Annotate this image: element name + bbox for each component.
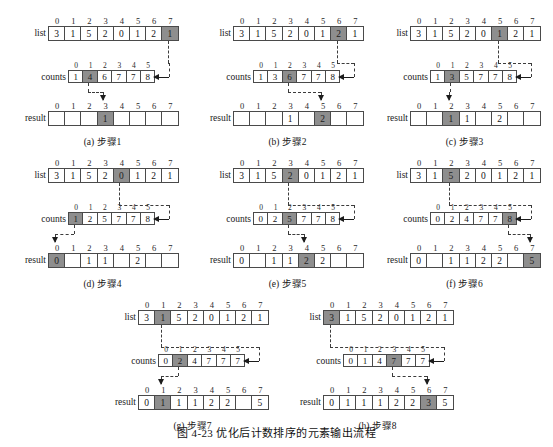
counts-array-label: counts bbox=[10, 70, 69, 85]
cell-index: 2 bbox=[87, 159, 91, 168]
cell-wrapper: 40 bbox=[299, 17, 315, 41]
cell-wrapper: 58 bbox=[141, 204, 155, 225]
cell-index: 1 bbox=[451, 62, 455, 70]
cell-wrapper: 71 bbox=[252, 301, 268, 325]
cell-index: 1 bbox=[274, 62, 278, 70]
cell-wrapper: 57 bbox=[416, 346, 430, 367]
cell-index: 5 bbox=[498, 17, 502, 26]
cell-wrapper: 00 bbox=[159, 346, 173, 367]
result-array: result0123145267 bbox=[195, 102, 364, 126]
cell: 5 bbox=[459, 70, 474, 83]
cell bbox=[249, 253, 266, 268]
cell-index: 2 bbox=[272, 244, 276, 253]
cell: 1 bbox=[459, 253, 476, 268]
cell-index: 0 bbox=[74, 62, 78, 70]
result-array: result01213145267 bbox=[372, 102, 541, 126]
cell-wrapper: 71 bbox=[524, 17, 540, 41]
cell-index: 5 bbox=[136, 159, 140, 168]
cell: 1 bbox=[249, 168, 266, 183]
cell-wrapper: 32 bbox=[460, 159, 476, 183]
cell-index: 1 bbox=[346, 301, 350, 310]
cell-index: 2 bbox=[362, 386, 366, 395]
cell-wrapper: 25 bbox=[266, 159, 282, 183]
panel-step-a: list0311253240516271counts011426374758re… bbox=[10, 8, 195, 150]
cell bbox=[129, 111, 146, 126]
cell-wrapper: 11 bbox=[250, 159, 266, 183]
list-array-cells: 0311253240516271 bbox=[234, 17, 364, 41]
cell-wrapper: 6 bbox=[331, 244, 347, 268]
cell-index: 4 bbox=[395, 386, 399, 395]
list-array-cells: 0311253240516271 bbox=[49, 159, 179, 183]
connector-counts-to-result-vertical bbox=[74, 225, 75, 234]
cell: 0 bbox=[475, 26, 492, 41]
cell-wrapper: 71 bbox=[347, 17, 363, 41]
cell-index: 6 bbox=[337, 244, 341, 253]
cell-wrapper: 01 bbox=[431, 62, 445, 83]
cell-wrapper: 11 bbox=[340, 386, 356, 410]
cell-wrapper: 11 bbox=[155, 386, 171, 410]
cell-wrapper: 2 bbox=[266, 102, 282, 126]
list-array-label: list bbox=[100, 310, 139, 325]
cell-wrapper: 6 bbox=[146, 244, 162, 268]
cell-wrapper: 58 bbox=[326, 204, 340, 225]
cell-index: 0 bbox=[74, 204, 78, 212]
cell: 7 bbox=[401, 354, 416, 367]
cell-wrapper: 03 bbox=[139, 301, 155, 325]
cell bbox=[523, 111, 540, 126]
cell-wrapper: 52 bbox=[130, 244, 146, 268]
cell-index: 0 bbox=[55, 102, 59, 111]
cell-wrapper: 75 bbox=[437, 386, 453, 410]
cell-wrapper: 51 bbox=[130, 17, 146, 41]
cell: 3 bbox=[410, 168, 427, 183]
cell-wrapper: 47 bbox=[127, 62, 141, 83]
cell bbox=[330, 111, 347, 126]
cell: 2 bbox=[459, 26, 476, 41]
cell-wrapper: 21 bbox=[356, 386, 372, 410]
counts-array: counts011426374758 bbox=[10, 62, 155, 85]
cell-wrapper: 1 bbox=[65, 102, 81, 126]
cell: 1 bbox=[346, 168, 363, 183]
list-array-cells: 0311253240516271 bbox=[411, 17, 541, 41]
cell-wrapper: 31 bbox=[460, 244, 476, 268]
cell-index: 2 bbox=[272, 17, 276, 26]
cell-wrapper: 57 bbox=[231, 346, 245, 367]
cell-index: 3 bbox=[117, 62, 121, 70]
cell-wrapper: 00 bbox=[49, 244, 65, 268]
cell-highlighted: 5 bbox=[282, 212, 297, 225]
cell-highlighted: 5 bbox=[523, 253, 540, 268]
result-array-cells: 012314567 bbox=[49, 102, 179, 126]
cell-index: 5 bbox=[136, 244, 140, 253]
cell-index: 0 bbox=[417, 102, 421, 111]
result-array-cells: 0011213142526375 bbox=[324, 386, 454, 410]
counts-array: counts001224374758 bbox=[372, 204, 517, 227]
result-array: result001213145267 bbox=[10, 244, 179, 268]
cell-index: 6 bbox=[427, 386, 431, 395]
cell-wrapper: 6 bbox=[331, 102, 347, 126]
cell: 2 bbox=[235, 310, 252, 325]
cell-index: 1 bbox=[256, 159, 260, 168]
cell: 7 bbox=[488, 212, 503, 225]
cell-wrapper: 25 bbox=[443, 159, 459, 183]
cell-index: 0 bbox=[55, 159, 59, 168]
cell-index: 2 bbox=[87, 102, 91, 111]
cell-index: 7 bbox=[530, 17, 534, 26]
cell-index: 3 bbox=[466, 102, 470, 111]
list-array: list0311253240516271 bbox=[372, 17, 541, 41]
cell: 3 bbox=[267, 70, 282, 83]
cell-index: 3 bbox=[104, 102, 108, 111]
list-array-cells: 0311253240516271 bbox=[234, 159, 364, 183]
cell-index: 3 bbox=[466, 17, 470, 26]
cell-wrapper: 5 bbox=[130, 102, 146, 126]
cell-wrapper: 62 bbox=[421, 301, 437, 325]
cell-index: 2 bbox=[177, 386, 181, 395]
cell-wrapper: 63 bbox=[421, 386, 437, 410]
connector-rail-vertical bbox=[444, 347, 445, 361]
cell: 1 bbox=[64, 168, 81, 183]
cell-wrapper: 24 bbox=[460, 204, 474, 225]
cell-index: 3 bbox=[289, 159, 293, 168]
counts-arrow-head bbox=[515, 74, 521, 80]
cell-highlighted: 5 bbox=[442, 168, 459, 183]
connector-counts-to-result-horizontal bbox=[392, 376, 427, 377]
counts-array-cells: 011225374758 bbox=[69, 204, 155, 225]
cell: 1 bbox=[459, 111, 476, 126]
